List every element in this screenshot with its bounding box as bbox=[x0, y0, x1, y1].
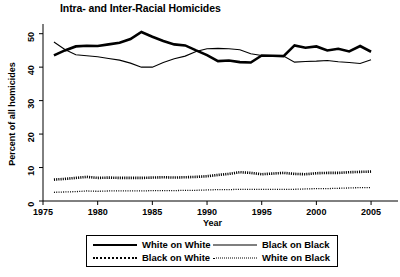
legend-label: Black on White bbox=[142, 252, 210, 263]
legend-label: White on White bbox=[142, 239, 211, 250]
y-tick-label: 0 bbox=[26, 202, 36, 207]
y-tick-label: 40 bbox=[26, 65, 36, 75]
legend-line-swatch bbox=[93, 240, 137, 250]
y-axis-title: Percent of all homicides bbox=[7, 62, 17, 166]
legend-entry[interactable]: White on Black bbox=[213, 252, 333, 263]
series-line-2 bbox=[54, 172, 371, 180]
legend-line-swatch bbox=[93, 253, 137, 263]
x-axis-title: Year bbox=[203, 218, 223, 228]
x-tick-label: 1985 bbox=[142, 207, 162, 217]
legend-line-swatch bbox=[213, 253, 257, 263]
y-tick-label: 10 bbox=[26, 166, 36, 176]
x-tick-label: 1995 bbox=[252, 207, 272, 217]
y-tick-label: 50 bbox=[26, 32, 36, 42]
y-tick-label: 30 bbox=[26, 99, 36, 109]
legend-entry[interactable]: Black on Black bbox=[213, 239, 333, 250]
legend-line-swatch bbox=[213, 240, 257, 250]
x-tick-label: 1990 bbox=[197, 207, 217, 217]
legend-label: White on Black bbox=[262, 252, 330, 263]
x-tick-label: 1975 bbox=[33, 207, 53, 217]
x-tick-label: 1980 bbox=[88, 207, 108, 217]
x-tick-label: 2000 bbox=[306, 207, 326, 217]
legend-grid: White on WhiteBlack on BlackBlack on Whi… bbox=[87, 236, 337, 266]
legend-entry[interactable]: White on White bbox=[93, 239, 213, 250]
legend-label: Black on Black bbox=[262, 239, 330, 250]
chart-legend: White on WhiteBlack on BlackBlack on Whi… bbox=[86, 235, 338, 267]
legend-entry[interactable]: Black on White bbox=[93, 252, 213, 263]
y-tick-label: 20 bbox=[26, 132, 36, 142]
x-tick-label: 2005 bbox=[361, 207, 381, 217]
chart-figure: Intra- and Inter-Racial Homicides 010203… bbox=[0, 0, 400, 277]
series-line-3 bbox=[54, 188, 371, 193]
